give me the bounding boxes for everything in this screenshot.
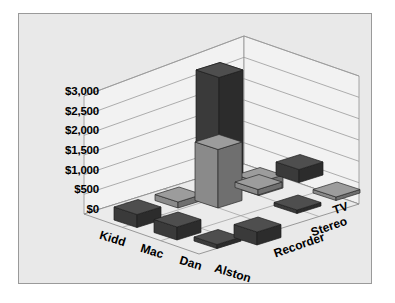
screenshot-root: $3,000 $2,500 $2,000 $1,500 $1,000 $500 … <box>0 0 395 303</box>
y-tick-500: $500 <box>74 184 99 195</box>
bar-dan-stereo <box>195 135 242 209</box>
y-tick-0: $0 <box>87 204 99 215</box>
y-tick-3000: $3,000 <box>65 86 99 97</box>
y-tick-2500: $2,500 <box>65 106 99 117</box>
y-tick-1500: $1,500 <box>65 145 99 156</box>
y-axis-labels: $3,000 $2,500 $2,000 $1,500 $1,000 $500 … <box>25 86 99 226</box>
chart-frame: $3,000 $2,500 $2,000 $1,500 $1,000 $500 … <box>18 13 372 284</box>
y-tick-1000: $1,000 <box>65 165 99 176</box>
y-tick-2000: $2,000 <box>65 125 99 136</box>
